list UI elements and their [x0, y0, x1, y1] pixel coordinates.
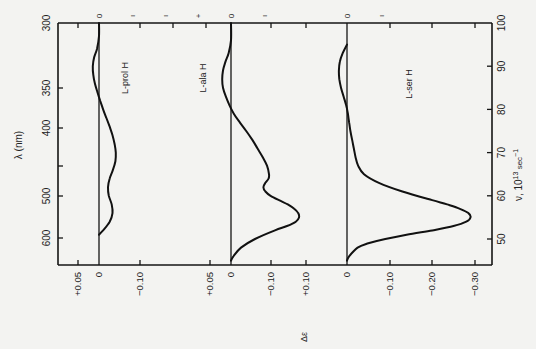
- delta-epsilon-tick-label: −0.10: [134, 272, 145, 296]
- svg-text:ı: ı: [128, 15, 137, 17]
- nu-tick-label: 90: [496, 60, 507, 72]
- label-l-ala: L-ala H: [198, 63, 208, 92]
- delta-epsilon-tick-label: −0.10: [384, 272, 395, 296]
- svg-text:ı: ı: [260, 15, 269, 17]
- svg-text:0: 0: [227, 13, 236, 18]
- nu-tick-label: 60: [496, 190, 507, 202]
- right-axis-title: ν, 1013 sec−1: [512, 149, 524, 201]
- label-l-ser: L-ser H: [404, 69, 414, 99]
- nu-tick-label: 70: [496, 147, 507, 159]
- delta-epsilon-tick-label: 0: [225, 272, 236, 277]
- frequency-axis: 1009080706050: [487, 14, 507, 244]
- delta-epsilon-tick-label: +0.05: [72, 272, 83, 296]
- lambda-tick-label: 500: [41, 187, 52, 204]
- cd-spectra-chart: 300350400500600 1009080706050 +0.050−0.1…: [0, 0, 536, 349]
- wavelength-axis: 300350400500600: [41, 14, 63, 246]
- nu-tick-label: 80: [496, 103, 507, 115]
- delta-epsilon-tick-label: −0.20: [426, 272, 437, 296]
- nu-tick-label: 100: [496, 14, 507, 31]
- delta-epsilon-tick-label: +0.05: [204, 272, 215, 296]
- svg-text:ı: ı: [377, 15, 386, 17]
- nu-label: ν, 10: [513, 179, 524, 201]
- left-axis-title: λ (nm): [13, 131, 24, 159]
- svg-text:0: 0: [343, 13, 352, 18]
- bottom-axis-title: Δε: [299, 332, 309, 342]
- svg-text:0: 0: [95, 13, 104, 18]
- svg-text:ı: ı: [161, 15, 170, 17]
- lambda-tick-label: 600: [41, 229, 52, 246]
- svg-text:ν, 1013 sec−1: ν, 1013 sec−1: [512, 149, 524, 201]
- spectra-curves: [93, 23, 471, 261]
- delta-epsilon-tick-label: +0.10: [300, 272, 311, 296]
- delta-epsilon-tick-label: −0.10: [265, 272, 276, 296]
- lambda-tick-label: 300: [41, 14, 52, 31]
- label-l-prol: L-prol H: [120, 62, 130, 94]
- lambda-tick-label: 350: [41, 79, 52, 96]
- delta-epsilon-tick-label: 0: [341, 272, 352, 277]
- zero-baselines: [99, 23, 347, 265]
- svg-text:+: +: [194, 13, 203, 18]
- delta-epsilon-tick-label: −0.30: [469, 272, 480, 296]
- curve-l-prol: [93, 23, 116, 235]
- curve-l-ala: [222, 23, 299, 261]
- delta-epsilon-tick-label: 0: [93, 272, 104, 277]
- nu-tick-label: 50: [496, 233, 507, 245]
- plot-frame: [58, 23, 492, 265]
- lambda-tick-label: 400: [41, 119, 52, 136]
- top-tick-marks: 0ıı+0ı0ı: [78, 13, 475, 28]
